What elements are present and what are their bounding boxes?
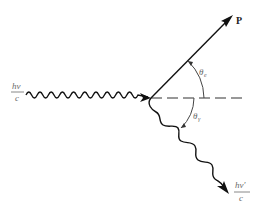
incoming-photon-wave	[26, 92, 148, 98]
electron-angle-subscript: e	[204, 72, 207, 78]
incoming-label-denominator: c	[15, 93, 19, 103]
electron-momentum-line	[151, 20, 228, 98]
electron-angle-label: θ e	[199, 67, 207, 78]
incoming-photon-label: hν c	[11, 81, 24, 103]
photon-angle-subscript: γ	[198, 116, 201, 122]
scattered-photon-label: hν′ c	[234, 180, 250, 203]
scattered-photon	[149, 98, 229, 194]
scattered-arrowhead-icon	[217, 181, 229, 194]
scattered-label-numerator: hν′	[235, 180, 246, 190]
recoil-electron	[151, 15, 233, 98]
photon-angle-label: θ γ	[193, 111, 201, 122]
compton-diagram: hν c P θ e θ γ hν′ c	[0, 0, 260, 217]
electron-momentum-label: P	[236, 15, 242, 26]
scattered-label-denominator: c	[239, 193, 243, 203]
incoming-photon	[26, 92, 151, 102]
incoming-label-numerator: hν	[12, 81, 21, 91]
scattered-photon-wave	[149, 98, 223, 186]
